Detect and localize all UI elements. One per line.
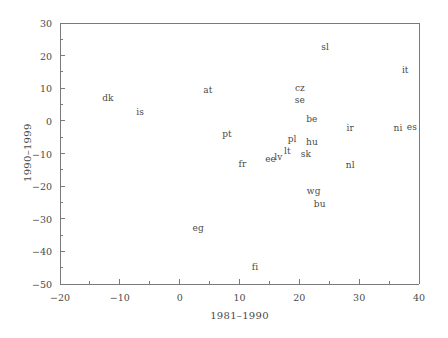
x-axis-tick-label: 40	[413, 292, 425, 303]
x-axis-tick-label: 30	[353, 292, 365, 303]
y-axis-tick-label: −30	[32, 213, 52, 224]
x-axis-tick-label: 20	[293, 292, 305, 303]
plot-area-container: dkisatslitczseptbeirniesplhuskltlveefrnl…	[0, 0, 448, 338]
data-point-label-wg: wg	[307, 187, 321, 196]
y-axis-tick-label: −50	[32, 279, 52, 290]
y-axis-tick-label: −10	[32, 148, 52, 159]
x-axis-tick-label: −10	[110, 292, 130, 303]
data-point-label-fr: fr	[239, 159, 247, 168]
y-axis-tick-label: 20	[40, 50, 52, 61]
data-point-label-ee: ee	[265, 155, 276, 164]
data-point-label-cz: cz	[295, 83, 305, 92]
data-point-label-at: at	[203, 85, 212, 94]
data-point-label-hu: hu	[306, 137, 318, 146]
data-point-label-es: es	[407, 123, 417, 132]
y-axis-title: 1990–1999	[22, 123, 33, 182]
y-axis-tick-label: 30	[40, 18, 52, 29]
data-point-label-se: se	[295, 95, 305, 104]
x-axis-tick-label: −20	[50, 292, 70, 303]
data-point-label-dk: dk	[102, 94, 113, 103]
data-point-label-be: be	[306, 114, 317, 123]
data-point-label-pl: pl	[288, 134, 297, 143]
plot-axes-svg	[0, 0, 448, 338]
data-point-label-eg: eg	[193, 224, 204, 233]
y-axis-tick-label: 10	[40, 83, 52, 94]
data-point-label-lt: lt	[284, 146, 291, 155]
data-point-label-ir: ir	[346, 124, 353, 133]
data-point-label-ni: ni	[394, 124, 403, 133]
data-point-label-bu: bu	[314, 200, 326, 209]
y-axis-tick-label: −40	[32, 246, 52, 257]
data-point-label-pt: pt	[222, 129, 232, 138]
x-axis-tick-label: 10	[233, 292, 245, 303]
x-axis-title: 1981–1990	[210, 310, 269, 321]
data-point-label-is: is	[136, 108, 144, 117]
y-axis-tick-label: 0	[46, 115, 52, 126]
data-point-label-fi: fi	[252, 263, 258, 272]
data-point-label-sk: sk	[301, 149, 311, 158]
x-axis-tick-label: 0	[177, 292, 183, 303]
data-point-label-sl: sl	[321, 43, 329, 52]
y-axis-tick-label: −20	[32, 181, 52, 192]
data-point-label-it: it	[402, 65, 409, 74]
scatter-plot-figure: dkisatslitczseptbeirniesplhuskltlveefrnl…	[0, 0, 448, 338]
data-point-label-nl: nl	[346, 160, 355, 169]
